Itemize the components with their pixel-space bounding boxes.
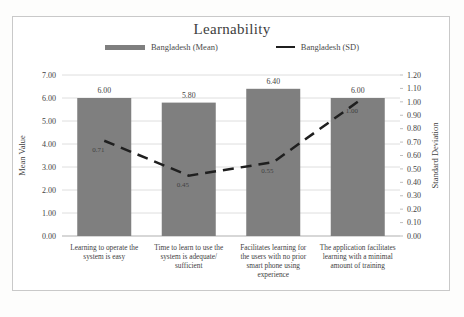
figure: Learnability Bangladesh (Mean) Banglades… — [0, 0, 464, 317]
bar — [77, 98, 131, 236]
right-axis-tick-label: 0.30 — [407, 191, 421, 200]
right-axis-tick-label: 0.80 — [407, 124, 421, 133]
left-axis-tick-label: 4.00 — [42, 140, 56, 149]
left-axis-tick-label: 0.00 — [42, 232, 56, 241]
bar-value-label: 6.40 — [266, 77, 280, 86]
right-axis-tick-label: 0.00 — [407, 232, 421, 241]
right-axis-tick-label: 1.10 — [407, 84, 421, 93]
left-axis-tick-label: 2.00 — [42, 186, 56, 195]
right-axis-tick-label: 0.70 — [407, 138, 421, 147]
bar — [246, 89, 300, 236]
right-axis-tick-label: 0.10 — [407, 218, 421, 227]
category-label: Time to learn to use thesystem is adequa… — [154, 243, 223, 270]
bar — [162, 103, 216, 236]
chart-svg: 0.001.002.003.004.005.006.007.000.000.10… — [0, 0, 464, 317]
category-label: Facilitates learning forthe users with n… — [240, 243, 307, 279]
left-axis-tick-label: 6.00 — [42, 94, 56, 103]
bar-value-label: 6.00 — [351, 86, 365, 95]
left-axis-tick-label: 5.00 — [42, 117, 56, 126]
right-axis-tick-label: 0.40 — [407, 178, 421, 187]
left-axis-tick-label: 1.00 — [42, 209, 56, 218]
category-label: The application facilitateslearning with… — [320, 243, 396, 270]
right-axis-tick-label: 1.20 — [407, 71, 421, 80]
sd-value-label: 1.00 — [346, 107, 359, 115]
bar — [331, 98, 385, 236]
sd-value-label: 0.71 — [92, 146, 105, 154]
bar-value-label: 5.80 — [182, 91, 196, 100]
bar-value-label: 6.00 — [97, 86, 111, 95]
left-axis-tick-label: 7.00 — [42, 71, 56, 80]
right-axis-tick-label: 0.90 — [407, 111, 421, 120]
sd-value-label: 0.55 — [261, 167, 274, 175]
sd-value-label: 0.45 — [177, 181, 190, 189]
right-axis-title: Standard Deviation — [430, 122, 440, 189]
right-axis-tick-label: 0.50 — [407, 165, 421, 174]
left-axis-tick-label: 3.00 — [42, 163, 56, 172]
category-label: Learning to operate thesystem is easy — [70, 243, 138, 261]
left-axis-title: Mean Value — [17, 135, 27, 176]
right-axis-tick-label: 0.60 — [407, 151, 421, 160]
sd-line — [104, 102, 358, 176]
right-axis-tick-label: 0.20 — [407, 205, 421, 214]
right-axis-tick-label: 1.00 — [407, 98, 421, 107]
